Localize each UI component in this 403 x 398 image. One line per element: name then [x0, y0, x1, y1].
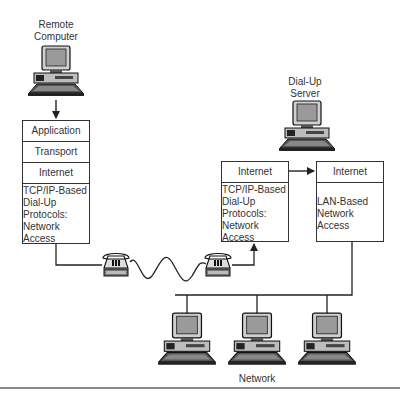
client-protocol-stack: Application Transport Internet TCP/IP-Ba…: [22, 120, 90, 244]
network-computer-icon: [295, 312, 359, 368]
bottom-divider: [0, 387, 400, 389]
layer-internet: Internet: [222, 162, 288, 183]
network-label: Network: [227, 373, 287, 385]
remote-computer-label: Remote Computer: [16, 19, 96, 43]
layer-dialup-network-access: TCP/IP-Based Dial-Up Protocols: Network …: [23, 184, 89, 243]
telephone-icon-client: [100, 250, 132, 278]
dialup-server-icon: [276, 100, 338, 154]
telephone-icon-server: [202, 250, 234, 278]
layer-lan-network-access: LAN-Based Network Access: [317, 183, 383, 242]
network-computer-icon: [155, 312, 219, 368]
remote-computer-icon: [25, 45, 87, 99]
server-dialup-protocol-stack: Internet TCP/IP-Based Dial-Up Protocols:…: [221, 161, 289, 242]
server-lan-protocol-stack: Internet LAN-Based Network Access: [316, 161, 384, 242]
layer-transport: Transport: [23, 142, 89, 163]
dialup-server-label: Dial-Up Server: [275, 76, 335, 100]
network-computer-icon: [225, 312, 289, 368]
layer-dialup-network-access: TCP/IP-Based Dial-Up Protocols: Network …: [222, 183, 288, 242]
layer-internet: Internet: [317, 162, 383, 183]
layer-application: Application: [23, 121, 89, 142]
layer-internet: Internet: [23, 163, 89, 184]
